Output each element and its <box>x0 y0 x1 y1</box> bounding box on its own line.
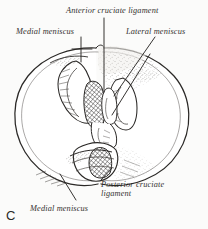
label-medial-meniscus-top: Medial meniscus <box>16 27 74 36</box>
anatomical-figure: Anterior cruciate ligament Medial menisc… <box>0 0 208 229</box>
label-posterior-cruciate-ligament-line2: ligament <box>101 189 131 198</box>
label-medial-meniscus-bottom: Medial meniscus <box>30 204 88 213</box>
label-lateral-meniscus: Lateral meniscus <box>126 27 185 36</box>
figure-letter: C <box>6 208 16 223</box>
label-posterior-cruciate-ligament: Posterior cruciate ligament <box>101 180 175 198</box>
label-anterior-cruciate-ligament: Anterior cruciate ligament <box>66 6 158 15</box>
label-posterior-cruciate-ligament-line1: Posterior cruciate <box>101 180 164 189</box>
